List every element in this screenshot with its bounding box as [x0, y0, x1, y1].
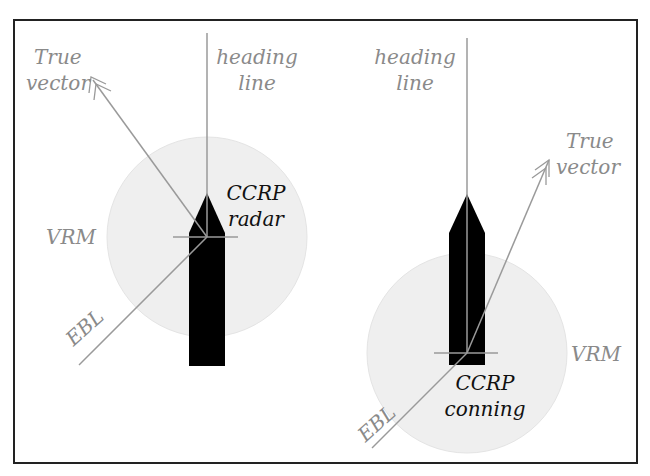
label-line: CCRP	[440, 370, 530, 396]
label-line: heading	[370, 44, 460, 70]
ccrp-radar-label: CCRP radar	[222, 180, 290, 232]
vrm-label-right: VRM	[571, 341, 621, 367]
ccrp-conning-label: CCRP conning	[440, 370, 530, 422]
label-line: radar	[222, 206, 290, 232]
true-vector-label-right: True vector	[556, 128, 630, 180]
label-line: line	[370, 70, 460, 96]
heading-line-label-right: heading line	[370, 44, 460, 96]
vrm-label-left: VRM	[46, 224, 96, 250]
label-line: heading	[212, 44, 302, 70]
label-line: CCRP	[222, 180, 290, 206]
diagram-canvas	[0, 0, 650, 476]
true-vector-label-left: True vector	[26, 44, 86, 96]
label-line: vector	[26, 70, 86, 96]
label-line: True	[26, 44, 86, 70]
label-line: vector	[556, 154, 630, 180]
label-line: conning	[440, 396, 530, 422]
label-line: True	[556, 128, 630, 154]
label-line: line	[212, 70, 302, 96]
heading-line-label-left: heading line	[212, 44, 302, 96]
